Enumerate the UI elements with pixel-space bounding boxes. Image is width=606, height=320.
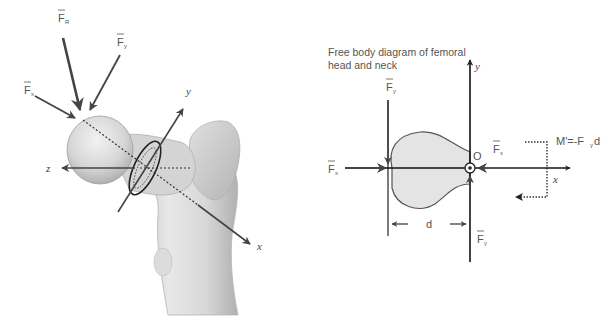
x-axis-label-3d: x (256, 240, 262, 252)
y-axis-label-3d: y (185, 85, 191, 97)
force-label-fy-bottom: F y (477, 231, 487, 246)
force-label-fx-left: F x (328, 161, 338, 176)
svg-text:y: y (393, 88, 396, 94)
force-label-fr: F R (58, 10, 70, 25)
force-label-fy: F y (117, 34, 127, 49)
origin-label: O (473, 150, 482, 162)
distance-d-label: d (426, 218, 432, 230)
femur-free-body-diagram: y z x F R F y F x y x O (0, 0, 606, 320)
svg-text:x: x (500, 150, 503, 156)
femur-bone (67, 116, 240, 315)
svg-text:F: F (58, 12, 65, 24)
moment-arrow (515, 142, 547, 201)
force-y-arrow (90, 55, 120, 110)
svg-text:R: R (65, 19, 70, 25)
svg-text:F: F (493, 143, 500, 155)
svg-text:F: F (117, 36, 124, 48)
fbd-neck-shape (391, 132, 470, 209)
x-axis-label-fbd: x (552, 173, 558, 185)
svg-text:F: F (328, 163, 335, 175)
force-label-fy-top: F y (386, 79, 396, 94)
svg-text:x: x (335, 170, 338, 176)
force-x-arrow (35, 96, 75, 118)
force-label-fx: F x (24, 82, 34, 97)
z-axis-label-3d: z (45, 162, 51, 174)
svg-text:F: F (477, 233, 484, 245)
svg-text:M'=-F: M'=-F (556, 135, 584, 147)
svg-text:F: F (24, 84, 31, 96)
svg-text:y: y (124, 43, 127, 49)
moment-label: M'=-F y d (556, 135, 600, 148)
svg-text:x: x (31, 91, 34, 97)
y-axis-label-fbd: y (474, 60, 480, 72)
force-r-arrow (63, 38, 80, 110)
svg-text:F: F (386, 81, 393, 93)
force-arrows-3d (35, 38, 120, 118)
svg-text:d: d (594, 135, 600, 147)
svg-text:y: y (484, 240, 487, 246)
origin-marker (465, 163, 475, 173)
svg-text:y: y (590, 142, 593, 148)
force-label-fx-right: F x (493, 141, 503, 156)
